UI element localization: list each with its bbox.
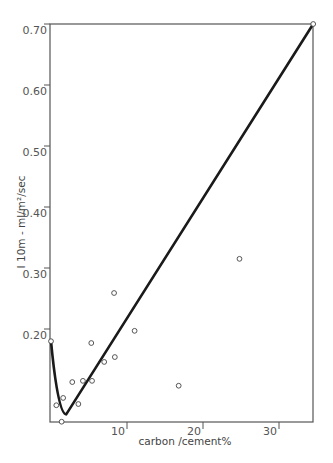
y-tick-label: 0.50 [23, 146, 48, 159]
data-point-marker [311, 22, 316, 27]
x-axis-title: carbon /cement% [139, 435, 232, 447]
data-point-marker [176, 383, 181, 388]
data-point-marker [49, 339, 54, 344]
data-point-marker [70, 380, 75, 385]
data-point-marker [112, 291, 117, 296]
x-tick-label: 30 [263, 425, 277, 438]
y-tick-label: 0.70 [23, 24, 48, 37]
y-tick-label: 0.20 [23, 329, 48, 342]
data-point-marker [102, 360, 107, 365]
data-point-marker [61, 396, 66, 401]
y-axis-title: I 10m - ml/m²/sec [15, 175, 27, 268]
fitted-curve-path [51, 24, 313, 414]
data-point-marker [112, 355, 117, 360]
data-point-marker [59, 419, 64, 424]
fitted-curve [51, 24, 313, 414]
data-point-marker [90, 378, 95, 383]
data-point-marker [81, 378, 86, 383]
y-tick-label: 0.60 [23, 85, 48, 98]
data-point-marker [89, 341, 94, 346]
data-point-marker [237, 256, 242, 261]
y-tick-label: 0.30 [23, 268, 48, 281]
plot-frame [50, 24, 313, 422]
chart: 0.200.300.400.500.600.70 102030 carbon /… [0, 0, 333, 463]
plot-border [50, 24, 313, 422]
data-point-marker [132, 328, 137, 333]
data-point-marker [76, 402, 81, 407]
x-tick-label: 10 [111, 425, 125, 438]
data-point-marker [54, 403, 59, 408]
